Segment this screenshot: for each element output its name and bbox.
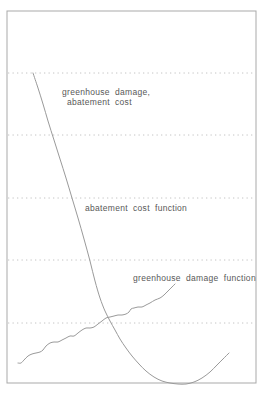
y-axis-label-line-2: abatement cost bbox=[67, 97, 132, 107]
figure-canvas: greenhouse damage, abatement cost abatem… bbox=[0, 0, 263, 394]
chart: greenhouse damage, abatement cost abatem… bbox=[0, 0, 263, 394]
abatement-cost-curve bbox=[33, 73, 229, 384]
greenhouse-damage-curve bbox=[18, 284, 175, 363]
y-axis-label-line-1: greenhouse damage, bbox=[62, 87, 150, 97]
plot-frame bbox=[7, 11, 256, 383]
abatement-cost-function-label: abatement cost function bbox=[85, 203, 187, 213]
greenhouse-damage-function-label: greenhouse damage function bbox=[133, 273, 256, 283]
